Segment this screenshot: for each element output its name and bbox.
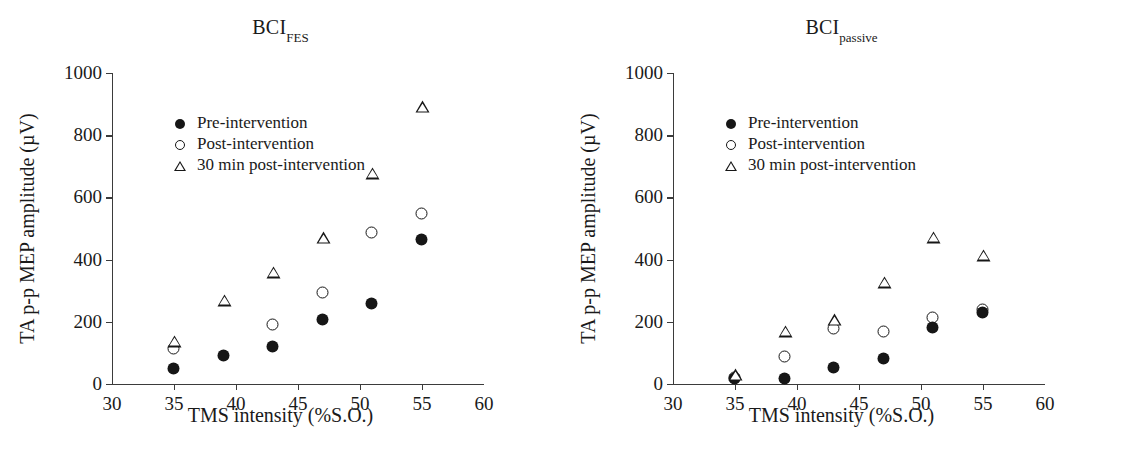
open-circle-icon: [729, 372, 741, 384]
data-point: [416, 101, 429, 114]
open-circle-icon: [977, 303, 989, 315]
data-point: [366, 227, 379, 240]
filled-circle-icon: [316, 314, 328, 326]
data-point: [316, 314, 329, 327]
data-point: [927, 312, 940, 325]
y-axis-title-text: TA p-p MEP amplitude (µV): [577, 113, 600, 343]
data-point: [828, 322, 841, 335]
x-axis-tick-label: 35: [165, 393, 184, 415]
x-axis-tick-label: 55: [974, 393, 993, 415]
open-triangle-icon: [170, 161, 190, 171]
filled-circle-icon: [721, 119, 741, 129]
filled-circle-icon: [977, 307, 989, 319]
filled-circle-icon: [927, 322, 939, 334]
legend-label: Post-intervention: [748, 133, 865, 156]
x-axis-tick: [735, 384, 736, 390]
legend-label: Post-intervention: [197, 133, 314, 156]
x-axis-tick-label: 60: [1036, 393, 1055, 415]
open-triangle-icon: [828, 314, 842, 326]
y-axis-tick-label: 600: [635, 186, 664, 208]
open-circle-icon: [170, 140, 190, 150]
open-triangle-icon: [721, 161, 741, 171]
y-axis-tick-label: 400: [635, 248, 664, 270]
y-axis-tick: [106, 197, 112, 198]
filled-circle-icon: [416, 234, 428, 246]
x-axis-tick-label: 45: [289, 393, 308, 415]
legend-item: 30 min post-intervention: [721, 155, 916, 176]
y-axis-tick-label: 800: [74, 124, 103, 146]
data-point: [977, 307, 990, 320]
open-triangle-icon: [366, 168, 380, 180]
x-axis-tick: [859, 384, 860, 390]
x-axis-tick-label: 50: [351, 393, 370, 415]
open-circle-icon: [877, 326, 889, 338]
panel-bci-passive: BCIpassive TA p-p MEP amplitude (µV) TMS…: [561, 0, 1122, 465]
data-point: [267, 341, 280, 354]
open-triangle-icon: [977, 249, 991, 261]
data-point: [828, 314, 841, 327]
data-point: [416, 234, 429, 247]
data-point: [977, 303, 990, 316]
data-point: [977, 249, 990, 262]
y-axis-tick-label: 200: [74, 310, 103, 332]
filled-circle-icon: [366, 297, 378, 309]
panel-title: BCIFES: [0, 16, 561, 43]
panel-title-subscript: passive: [839, 30, 877, 45]
y-axis-tick: [667, 322, 673, 323]
panel-title-subscript: FES: [286, 30, 308, 45]
x-axis-tick-label: 40: [788, 393, 807, 415]
open-circle-icon: [316, 287, 328, 299]
y-axis-tick: [667, 73, 673, 74]
y-axis-tick: [106, 322, 112, 323]
data-point: [778, 325, 791, 338]
legend-item: Post-intervention: [170, 134, 365, 155]
panel-bci-fes: BCIFES TA p-p MEP amplitude (µV) TMS int…: [0, 0, 561, 465]
panel-title-main: BCI: [805, 16, 839, 38]
y-axis-line: [112, 73, 113, 384]
open-circle-icon: [721, 140, 741, 150]
filled-circle-icon: [267, 341, 279, 353]
data-point: [729, 369, 742, 382]
y-axis-tick-label: 400: [74, 248, 103, 270]
legend: Pre-intervention Post-intervention 30 mi…: [170, 113, 365, 176]
x-axis-tick-label: 30: [103, 393, 122, 415]
open-triangle-icon: [267, 266, 281, 278]
x-axis-tick: [360, 384, 361, 390]
data-point: [778, 350, 791, 363]
y-axis-tick: [667, 384, 673, 385]
x-axis-tick-label: 60: [475, 393, 494, 415]
legend-label: Pre-intervention: [748, 112, 858, 135]
legend-label: Pre-intervention: [197, 112, 307, 135]
y-axis-tick: [667, 135, 673, 136]
y-axis-tick: [667, 197, 673, 198]
data-point: [366, 168, 379, 181]
x-axis-tick: [921, 384, 922, 390]
open-triangle-icon: [877, 276, 891, 288]
x-axis-tick: [236, 384, 237, 390]
x-axis-tick: [174, 384, 175, 390]
y-axis-title-text: TA p-p MEP amplitude (µV): [16, 113, 39, 343]
filled-circle-icon: [170, 119, 190, 129]
filled-circle-icon: [828, 362, 840, 374]
data-point: [316, 287, 329, 300]
data-point: [927, 231, 940, 244]
data-point: [877, 276, 890, 289]
x-axis-tick-label: 45: [850, 393, 869, 415]
data-point: [416, 207, 429, 220]
filled-circle-icon: [168, 363, 180, 375]
y-axis-line: [673, 73, 674, 384]
x-axis-tick: [422, 384, 423, 390]
x-axis-tick: [797, 384, 798, 390]
open-triangle-icon: [316, 232, 330, 244]
open-triangle-icon: [778, 325, 792, 337]
data-point: [316, 232, 329, 245]
x-axis-tick-label: 50: [912, 393, 931, 415]
y-axis-tick: [106, 135, 112, 136]
legend: Pre-intervention Post-intervention 30 mi…: [721, 113, 916, 176]
data-point: [168, 343, 181, 356]
y-axis-title: TA p-p MEP amplitude (µV): [575, 73, 601, 384]
open-circle-icon: [778, 350, 790, 362]
data-point: [168, 336, 181, 349]
legend-item: Pre-intervention: [721, 113, 916, 134]
open-triangle-icon: [217, 294, 231, 306]
